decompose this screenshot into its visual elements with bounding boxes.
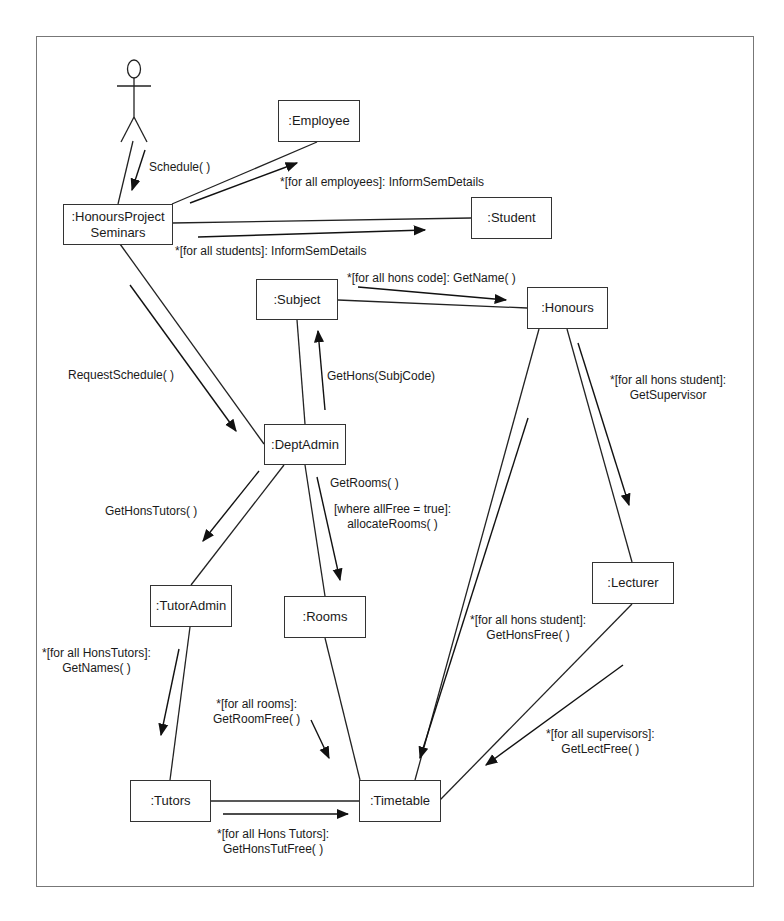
object-label: :Timetable bbox=[370, 793, 430, 809]
object-lecturer: :Lecturer bbox=[592, 562, 674, 604]
object-tutoradmin: :TutorAdmin bbox=[150, 585, 232, 627]
message-getrooms: GetRooms( ) bbox=[330, 476, 399, 491]
object-tutors: :Tutors bbox=[130, 780, 211, 822]
message-gethonstutfree: *[for all Hons Tutors]:GetHonsTutFree( ) bbox=[217, 827, 329, 857]
message-getsupervisor: *[for all hons student]:GetSupervisor bbox=[610, 373, 726, 403]
message-inform-students: *[for all students]: InformSemDetails bbox=[175, 244, 366, 259]
object-subject: :Subject bbox=[256, 279, 338, 320]
object-label: :Rooms bbox=[303, 609, 348, 625]
message-inform-employees: *[for all employees]: InformSemDetails bbox=[280, 175, 484, 190]
message-schedule: Schedule( ) bbox=[149, 160, 210, 175]
object-label: :Honours bbox=[541, 300, 594, 316]
object-label: :DeptAdmin bbox=[271, 437, 339, 453]
object-label-line2: Seminars bbox=[91, 225, 146, 241]
message-request-schedule: RequestSchedule( ) bbox=[68, 368, 174, 383]
object-timetable: :Timetable bbox=[359, 780, 441, 822]
message-gethons: GetHons(SubjCode) bbox=[327, 369, 435, 384]
object-deptadmin: :DeptAdmin bbox=[264, 424, 346, 465]
object-label: :Student bbox=[487, 210, 535, 226]
object-label: :Employee bbox=[288, 113, 349, 129]
object-rooms: :Rooms bbox=[284, 596, 366, 638]
object-label: :Tutors bbox=[151, 793, 191, 809]
object-label: :HonoursProject bbox=[71, 209, 164, 225]
message-allocaterooms: [where allFree = true]:allocateRooms( ) bbox=[334, 502, 451, 532]
object-student: :Student bbox=[471, 197, 552, 239]
message-gethonstutors: GetHonsTutors( ) bbox=[105, 504, 197, 519]
message-getname: *[for all hons code]: GetName( ) bbox=[347, 271, 516, 286]
object-label: :TutorAdmin bbox=[156, 598, 226, 614]
object-honours-project-seminars: :HonoursProjectSeminars bbox=[63, 204, 173, 245]
object-label: :Subject bbox=[274, 292, 321, 308]
object-honours: :Honours bbox=[527, 287, 608, 329]
message-getroomfree: *[for all rooms]:GetRoomFree( ) bbox=[213, 697, 300, 727]
message-getlectfree: *[for all supervisors]:GetLectFree( ) bbox=[546, 727, 655, 757]
message-getnames: *[for all HonsTutors]:GetNames( ) bbox=[42, 646, 151, 676]
message-gethonsfree: *[for all hons student]:GetHonsFree( ) bbox=[470, 613, 586, 643]
diagram-frame bbox=[36, 36, 754, 887]
object-label: :Lecturer bbox=[607, 575, 658, 591]
object-employee: :Employee bbox=[278, 100, 360, 142]
